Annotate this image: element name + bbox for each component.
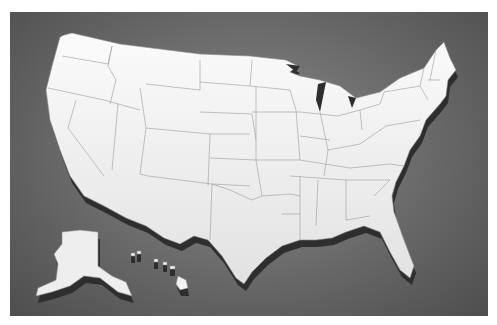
us-map [0, 0, 497, 325]
hawaii [131, 251, 189, 296]
alaska [36, 230, 134, 303]
